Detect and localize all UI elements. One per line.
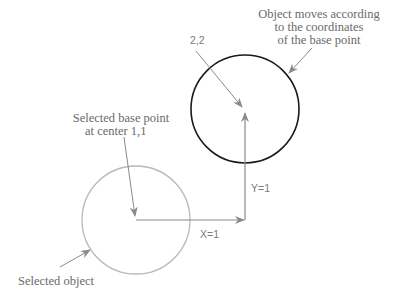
selected-object-leader-arrow bbox=[60, 250, 90, 267]
moved-object-label: Object moves according to the coordinate… bbox=[254, 8, 384, 47]
x-displacement-label: X=1 bbox=[200, 228, 219, 240]
base-point-label: Selected base point at center 1,1 bbox=[66, 112, 176, 138]
moved-object-leader-arrow bbox=[289, 48, 312, 73]
target-point-label: 2,2 bbox=[190, 34, 205, 46]
moved-object-label-line3: of the base point bbox=[254, 34, 384, 47]
base-point-leader-arrow bbox=[124, 137, 135, 216]
target-point-leader-arrow bbox=[196, 51, 242, 107]
y-displacement-label: Y=1 bbox=[251, 182, 270, 194]
selected-object-label: Selected object bbox=[18, 275, 94, 288]
base-point-label-line2: at center 1,1 bbox=[66, 125, 176, 138]
